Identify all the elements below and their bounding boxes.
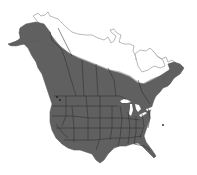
range-map: Range map of North America (0, 0, 197, 175)
coast-marker (162, 124, 164, 126)
island-marker (59, 99, 61, 101)
island-marker (56, 96, 58, 98)
north-america-map (0, 0, 197, 175)
